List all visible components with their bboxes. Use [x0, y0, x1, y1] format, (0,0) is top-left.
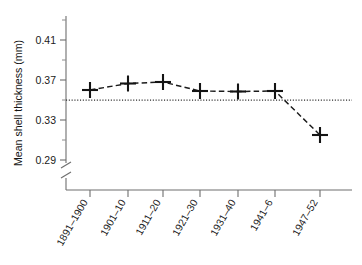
x-tick-label-2: 1911–20 [134, 197, 163, 237]
y-tick-label-0: 0.41 [36, 34, 57, 46]
x-ticks [90, 190, 320, 197]
x-tick-label-0: 1891–1900 [54, 197, 89, 247]
line-chart: 0.41 0.37 0.33 0.29 Mean shell thickness… [0, 0, 362, 265]
x-tick-labels: 1891–1900 1901–10 1911–20 1921–30 1931–4… [54, 197, 319, 247]
x-tick-label-5: 1941–6 [248, 197, 275, 232]
y-axis [61, 16, 71, 190]
y-axis-title: Mean shell thickness (mm) [12, 40, 24, 166]
y-tick-label-2: 0.33 [36, 114, 57, 126]
axis-break-slash-lower [61, 172, 71, 178]
data-point-1901-10 [120, 76, 136, 92]
data-point-1891-1900 [82, 82, 98, 98]
x-tick-label-6: 1947–52 [290, 197, 320, 237]
x-tick-label-1: 1901–10 [98, 197, 128, 237]
y-tick-labels: 0.41 0.37 0.33 0.29 [36, 34, 57, 166]
data-point-1931-40 [230, 84, 246, 100]
y-tick-label-3: 0.29 [36, 154, 57, 166]
x-tick-label-4: 1931–40 [208, 197, 238, 237]
y-tick-label-1: 0.37 [36, 74, 57, 86]
x-tick-label-3: 1921–30 [170, 197, 200, 237]
data-point-1921-30 [192, 83, 208, 99]
data-point-1947-52 [312, 127, 328, 143]
data-point-1911-20 [155, 74, 171, 90]
chart-figure: 0.41 0.37 0.33 0.29 Mean shell thickness… [0, 0, 362, 265]
